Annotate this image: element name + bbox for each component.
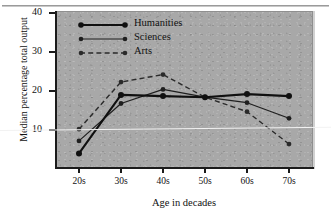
x-tick-60s bbox=[246, 167, 248, 173]
y-axis-title: Median percentage total output bbox=[18, 5, 29, 155]
x-tick-40s bbox=[162, 167, 164, 173]
y-tick-40 bbox=[49, 12, 55, 14]
legend-label-arts: Arts bbox=[134, 45, 152, 56]
y-axis-line bbox=[55, 11, 57, 169]
x-tick-label-60s: 60s bbox=[232, 176, 262, 186]
x-axis-title: Age in decades bbox=[55, 197, 313, 208]
legend-label-sciences: Sciences bbox=[134, 31, 171, 42]
legend-label-humanities: Humanities bbox=[134, 17, 182, 28]
x-tick-20s bbox=[78, 167, 80, 173]
figure-canvas: 10 20 30 40 20s 30s 40s 50s 60s 70s Medi… bbox=[0, 0, 331, 219]
x-tick-label-50s: 50s bbox=[190, 176, 220, 186]
y-tick-30 bbox=[49, 51, 55, 53]
x-tick-label-70s: 70s bbox=[274, 176, 304, 186]
legend-swatch-arts bbox=[76, 46, 130, 60]
panel-shadow bbox=[313, 11, 315, 169]
x-tick-label-20s: 20s bbox=[64, 176, 94, 186]
x-tick-label-40s: 40s bbox=[148, 176, 178, 186]
x-tick-30s bbox=[120, 167, 122, 173]
x-tick-label-30s: 30s bbox=[106, 176, 136, 186]
x-tick-50s bbox=[204, 167, 206, 173]
x-tick-70s bbox=[288, 167, 290, 173]
y-tick-20 bbox=[49, 90, 55, 92]
page-top-rule-shadow bbox=[2, 6, 329, 7]
panel-top-edge bbox=[55, 11, 313, 12]
x-axis-line bbox=[55, 167, 314, 169]
legend-swatch-humanities bbox=[76, 18, 130, 32]
legend-swatch-sciences bbox=[76, 32, 130, 46]
